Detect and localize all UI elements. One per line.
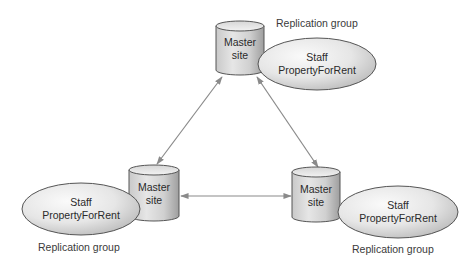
table-name-staff: Staff — [338, 199, 458, 212]
data-label-bottom-right: Staff PropertyForRent — [338, 199, 458, 225]
data-label-bottom-left: Staff PropertyForRent — [22, 196, 140, 222]
link-top-to-bottom-left — [157, 77, 222, 164]
master-site-line-2: site — [216, 49, 264, 62]
table-name-propertyforrent: PropertyForRent — [338, 212, 458, 225]
replication-group-label-top: Replication group — [276, 18, 358, 29]
link-top-to-bottom-right — [257, 77, 318, 167]
master-site-label-top: Master site — [216, 36, 264, 62]
table-name-staff: Staff — [258, 51, 376, 64]
table-name-staff: Staff — [22, 196, 140, 209]
master-site-line-1: Master — [292, 183, 340, 196]
master-site-line-1: Master — [130, 181, 178, 194]
table-name-propertyforrent: PropertyForRent — [258, 64, 376, 77]
replication-group-label-bottom-right: Replication group — [352, 244, 434, 255]
table-name-propertyforrent: PropertyForRent — [22, 209, 140, 222]
master-site-label-bottom-right: Master site — [292, 183, 340, 209]
master-site-line-2: site — [292, 196, 340, 209]
data-label-top: Staff PropertyForRent — [258, 51, 376, 77]
master-site-line-1: Master — [216, 36, 264, 49]
replication-group-label-bottom-left: Replication group — [38, 242, 120, 253]
